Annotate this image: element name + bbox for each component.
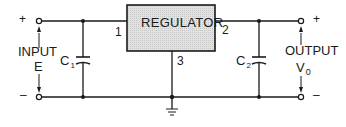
- junction-c1-top: [81, 19, 85, 23]
- c2-label: C2: [236, 55, 251, 72]
- junction-c2-top: [257, 19, 261, 23]
- regulator-label: REGULATOR: [141, 17, 223, 29]
- pin-3-label: 3: [177, 55, 184, 67]
- input-arrow-down-head: [37, 87, 41, 93]
- output-plus-label: +: [313, 13, 320, 25]
- output-arrow-up-head: [299, 26, 303, 32]
- pin-2-label: 2: [222, 24, 229, 36]
- input-symbol: E: [34, 61, 43, 73]
- junction-c2-bottom: [257, 95, 261, 99]
- output-symbol: V0: [296, 62, 311, 78]
- pin-1-label: 1: [115, 26, 122, 38]
- junction-gnd: [170, 95, 174, 99]
- output-arrow-down-head: [299, 87, 303, 93]
- input-minus-label: –: [20, 89, 27, 101]
- output-minus-terminal: [298, 94, 303, 99]
- output-label: OUTPUT: [285, 45, 338, 57]
- input-plus-label: +: [19, 13, 26, 25]
- c1-label: C1: [60, 55, 75, 72]
- input-plus-terminal: [36, 18, 41, 23]
- output-minus-label: –: [313, 89, 320, 101]
- junction-c1-bottom: [81, 95, 85, 99]
- input-arrow-up-head: [37, 26, 41, 32]
- input-minus-terminal: [36, 94, 41, 99]
- input-label: INPUT: [18, 46, 57, 58]
- output-plus-terminal: [298, 18, 303, 23]
